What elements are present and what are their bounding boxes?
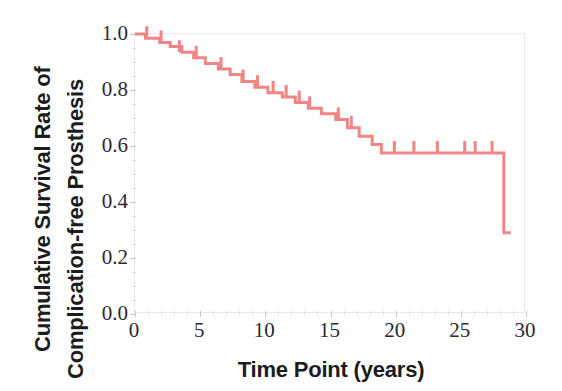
x-axis-tick-label: 0 (111, 318, 157, 343)
y-axis-title: Cumulative Survival Rate of Complication… (0, 0, 78, 391)
y-axis-tick-label: 0.2 (72, 245, 128, 270)
x-axis-tick-label: 30 (502, 318, 548, 343)
survival-step-line (135, 34, 511, 233)
y-axis-tick-label: 0.4 (72, 189, 128, 214)
x-axis-tick-label: 20 (372, 318, 418, 343)
y-axis-tick-label: 1.0 (72, 21, 128, 46)
x-axis-tick-label: 10 (241, 318, 287, 343)
plot-area (134, 33, 525, 313)
x-axis-tick-label: 25 (437, 318, 483, 343)
y-axis-tick-label: 0.6 (72, 133, 128, 158)
y-axis-title-line-1: Cumulative Survival Rate of (30, 66, 56, 352)
x-axis-tick-label: 15 (307, 318, 353, 343)
kaplan-meier-survival-chart: Cumulative Survival Rate of Complication… (0, 0, 562, 391)
y-axis-tick-label: 0.8 (72, 77, 128, 102)
y-axis-title-line-2: Complication-free Prosthesis (63, 79, 89, 379)
survival-curve-svg (135, 34, 526, 314)
x-axis-tick-label: 5 (176, 318, 222, 343)
x-axis-major-tick (526, 311, 527, 317)
censoring-marks-group (147, 26, 492, 153)
survival-curve-group (135, 26, 511, 233)
x-axis-title: Time Point (years) (131, 357, 531, 383)
